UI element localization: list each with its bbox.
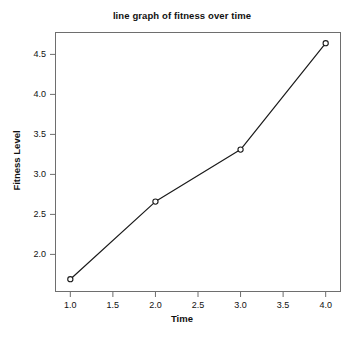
x-axis-tick-label: 3.0 — [234, 300, 247, 310]
y-axis-tick-label: 4.0 — [0, 89, 46, 99]
x-axis-tick-label: 2.5 — [192, 300, 205, 310]
y-axis-tick-label: 3.0 — [0, 169, 46, 179]
x-axis-tick-label: 1.0 — [64, 300, 77, 310]
x-axis-tick-label: 1.5 — [107, 300, 120, 310]
chart-figure: line graph of fitness over time 2.02.53.… — [0, 0, 364, 337]
y-axis-tick-label: 3.5 — [0, 129, 46, 139]
chart-title: line graph of fitness over time — [0, 10, 364, 21]
x-axis-tick-label: 3.5 — [277, 300, 290, 310]
y-axis-tick-label: 4.5 — [0, 49, 46, 59]
plot-area — [55, 32, 341, 292]
x-axis-tick-label: 2.0 — [149, 300, 162, 310]
x-axis-label: Time — [0, 313, 364, 324]
y-axis-tick-label: 2.5 — [0, 209, 46, 219]
y-axis-label: Fitness Level — [11, 121, 22, 201]
x-axis-tick-label: 4.0 — [319, 300, 332, 310]
y-axis-tick-label: 2.0 — [0, 249, 46, 259]
